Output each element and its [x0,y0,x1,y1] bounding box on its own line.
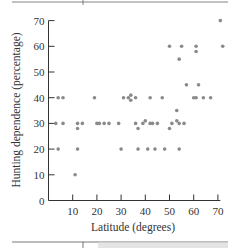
data-point [168,45,172,49]
data-point [81,122,85,126]
data-point [136,127,140,131]
data-point [134,96,138,100]
data-point [197,83,201,87]
data-point [148,96,152,100]
y-tick-label: 60 [34,40,46,52]
data-point [153,147,157,151]
data-point [175,109,179,113]
data-point [177,147,181,151]
data-point [107,122,111,126]
data-point [93,96,97,100]
x-axis: 10203040506070 [49,195,224,217]
y-axis-title: Hunting dependence (percentage) [10,32,23,187]
y-tick-label: 30 [34,117,46,129]
data-point [170,122,174,126]
data-point [180,45,184,49]
data-point [76,127,80,131]
x-tick-label: 40 [140,205,152,217]
data-point [194,45,198,49]
data-point [144,119,148,123]
data-point [163,147,167,151]
data-point [168,127,172,131]
data-point [56,96,60,100]
data-point [61,122,65,126]
data-point [185,83,189,87]
scatter-chart: 010203040506070 10203040506070 Hunting d… [0,0,237,248]
bottom-band [98,243,228,248]
data-point [194,96,198,100]
data-point [102,122,106,126]
x-tick-label: 20 [91,205,103,217]
data-point [160,96,164,100]
data-point [129,98,133,102]
y-tick-label: 70 [34,15,46,27]
data-point [156,122,160,126]
data-point [73,173,77,177]
data-point [182,122,186,126]
data-point [119,147,123,151]
data-point [134,122,138,126]
data-point [194,50,198,54]
x-tick-label: 70 [212,205,224,217]
data-point [202,96,206,100]
data-point [117,122,121,126]
y-tick-label: 10 [34,169,46,181]
y-axis: 010203040506070 [34,15,55,207]
data-point [221,45,225,49]
data-point [54,122,58,126]
data-point [61,96,65,100]
data-point [76,147,80,151]
data-point [98,122,102,126]
data-point [146,147,150,151]
data-point [219,19,223,23]
data-point [122,96,126,100]
data-point [56,147,60,151]
data-points [54,19,225,177]
data-point [76,122,80,126]
y-tick-label: 50 [34,66,46,78]
y-tick-label: 40 [34,92,46,104]
x-tick-label: 50 [164,205,176,217]
x-tick-label: 30 [116,205,128,217]
data-point [136,147,140,151]
data-point [129,93,133,97]
x-tick-label: 10 [67,205,79,217]
y-tick-label: 20 [34,143,46,155]
x-axis-title: Latitude (degrees) [91,221,175,234]
data-point [177,122,181,126]
x-tick-label: 60 [188,205,200,217]
y-tick-label: 0 [39,195,45,207]
data-point [177,57,181,61]
data-point [151,122,155,126]
data-point [209,96,213,100]
